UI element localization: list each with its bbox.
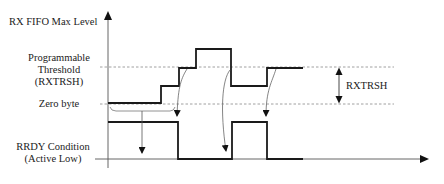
x-axis-arrow-icon — [420, 155, 429, 163]
threshold-label-line2: Threshold — [38, 64, 81, 75]
x-axis — [95, 155, 429, 163]
y-axis-title: RX FIFO Max Level — [9, 16, 97, 27]
rrdy-label-line2: (Active Low) — [25, 153, 82, 165]
dimension-down-arrow-icon — [336, 96, 343, 104]
zero-byte-bracket — [110, 107, 175, 111]
threshold-label-line1: Programmable — [28, 52, 90, 63]
y-axis-arrow-icon — [104, 11, 112, 20]
dimension-label: RXTRSH — [346, 80, 388, 91]
threshold-label-line3: (RXTRSH) — [35, 76, 84, 88]
dimension-up-arrow-icon — [336, 68, 343, 76]
rrdy-waveform — [108, 122, 303, 159]
rx-fifo-rrdy-timing-diagram: RXTRSH RX FIFO Max Level Programmable Th… — [0, 0, 444, 184]
rrdy-label-line1: RRDY Condition — [16, 141, 90, 152]
zero-byte-label: Zero byte — [39, 98, 80, 109]
rxtrsh-dimension: RXTRSH — [336, 68, 388, 104]
drop-below-arrow — [223, 70, 230, 151]
y-axis — [104, 11, 112, 168]
